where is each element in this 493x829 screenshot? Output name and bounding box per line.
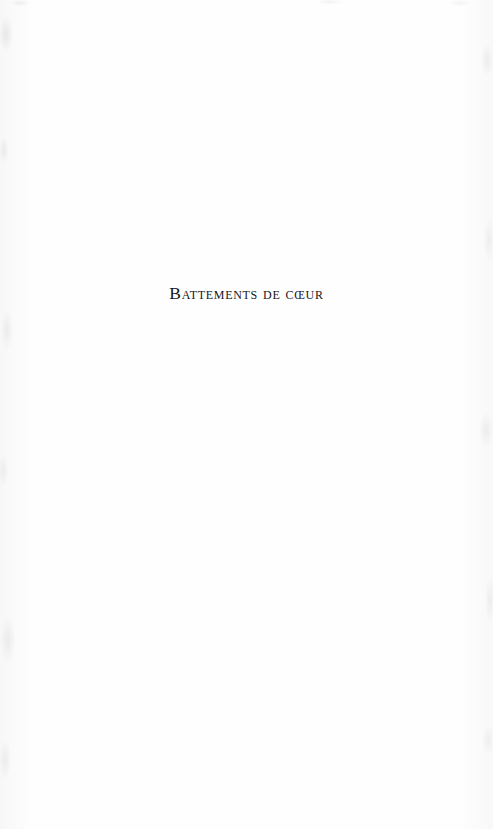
half-title-text: Battements de cœur [169,283,323,303]
half-title-block: Battements de cœur [0,283,493,303]
book-page: Battements de cœur [0,0,493,829]
scan-artifact-right-edge [459,0,493,829]
scan-artifact-left-edge [0,0,34,829]
scan-artifact-top-edge [0,0,493,20]
